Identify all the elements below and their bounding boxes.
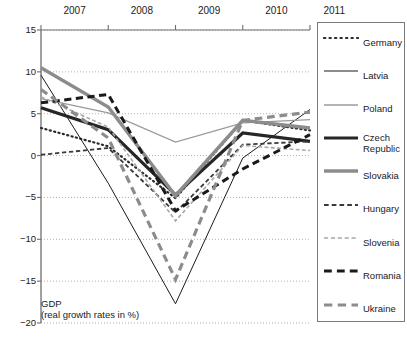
legend-label: Latvia	[363, 70, 406, 81]
series-line-germany	[41, 120, 310, 198]
y-tick-label: −5	[4, 191, 36, 202]
legend-swatch-icon	[323, 159, 359, 183]
series-line-hungary	[41, 141, 310, 212]
y-tick-label: −15	[4, 275, 36, 286]
legend-swatch-icon	[323, 293, 359, 317]
legend-swatch-icon	[323, 26, 359, 50]
legend-item-germany[interactable]: Germany	[318, 26, 404, 59]
legend-label: Germany	[363, 37, 406, 48]
chart-container: 151050−5−10−15−20 20072008200920102011 G…	[0, 0, 407, 340]
y-tick-label: 5	[4, 108, 36, 119]
legend-label: Slovenia	[363, 237, 406, 248]
x-tick-label-2010: 2010	[254, 5, 298, 16]
x-tick-label-2007: 2007	[53, 5, 97, 16]
legend-swatch-icon	[323, 126, 359, 150]
y-tick-label: −20	[4, 317, 36, 328]
chart-legend: GermanyLatviaPolandCzech RepublicSlovaki…	[317, 22, 405, 322]
legend-label: Czech Republic	[363, 132, 406, 154]
legend-item-ukraine[interactable]: Ukraine	[318, 293, 404, 326]
legend-swatch-icon	[323, 93, 359, 117]
series-line-slovakia	[41, 68, 310, 196]
x-tick-label-2009: 2009	[187, 5, 231, 16]
y-tick-label: 15	[4, 24, 36, 35]
legend-label: Poland	[363, 103, 406, 114]
x-tick-label-2011: 2011	[312, 5, 356, 16]
legend-item-poland[interactable]: Poland	[318, 93, 404, 126]
series-line-latvia	[41, 75, 310, 304]
chart-annotation-title: GDP	[41, 298, 62, 310]
series-line-czech-republic	[41, 108, 310, 195]
legend-label: Ukraine	[363, 303, 406, 314]
series-line-ukraine	[41, 89, 310, 279]
legend-label: Romania	[363, 270, 406, 281]
legend-swatch-icon	[323, 193, 359, 217]
y-tick-label: 0	[4, 150, 36, 161]
legend-label: Slovakia	[363, 170, 406, 181]
legend-swatch-icon	[323, 226, 359, 250]
y-tick-label: 10	[4, 66, 36, 77]
legend-swatch-icon	[323, 259, 359, 283]
legend-item-romania[interactable]: Romania	[318, 259, 404, 292]
legend-item-hungary[interactable]: Hungary	[318, 193, 404, 226]
legend-label: Hungary	[363, 203, 406, 214]
x-tick-label-2008: 2008	[120, 5, 164, 16]
legend-item-slovenia[interactable]: Slovenia	[318, 226, 404, 259]
legend-item-slovakia[interactable]: Slovakia	[318, 159, 404, 192]
legend-swatch-icon	[323, 59, 359, 83]
legend-item-latvia[interactable]: Latvia	[318, 59, 404, 92]
legend-item-czech-republic[interactable]: Czech Republic	[318, 126, 404, 159]
y-tick-label: −10	[4, 233, 36, 244]
chart-annotation-subtitle: (real growth rates in %)	[41, 309, 139, 321]
